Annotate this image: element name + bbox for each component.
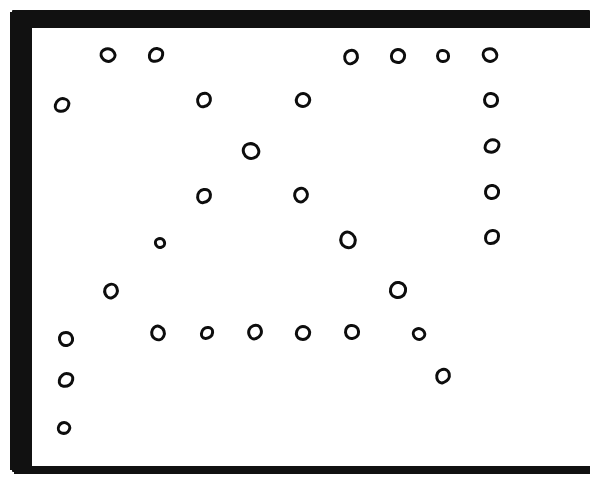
frame-interior [32, 28, 590, 466]
circle-marker[interactable] [436, 49, 450, 63]
border-frame [12, 10, 590, 472]
figure-canvas [0, 0, 597, 480]
scan-ghost-text [120, 432, 520, 448]
